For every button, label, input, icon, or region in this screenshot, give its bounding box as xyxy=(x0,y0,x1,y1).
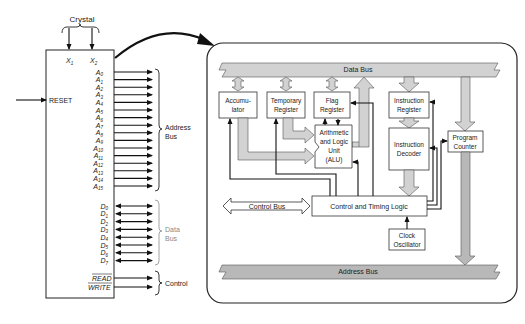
svg-text:(ALU): (ALU) xyxy=(326,156,343,164)
write-pin: WRITE xyxy=(88,284,111,291)
reset-input: RESET xyxy=(16,97,73,104)
svg-text:Arithmetic: Arithmetic xyxy=(320,129,350,136)
svg-text:Temporary: Temporary xyxy=(271,97,302,105)
crystal-label: Crystal xyxy=(70,15,95,24)
svg-text:Bus: Bus xyxy=(165,235,178,242)
zoom-arrow xyxy=(115,33,215,58)
svg-text:Register: Register xyxy=(320,106,345,114)
address-bus-brace: Address Bus xyxy=(155,69,191,191)
svg-text:Instruction: Instruction xyxy=(394,141,424,148)
address-pins: A0A1A2A3A4A5A6A7A8A9A10A11A12A13A14A15 xyxy=(92,69,152,192)
instruction-register: Instruction Register xyxy=(389,92,429,118)
instruction-decoder: Instruction Decoder xyxy=(389,128,429,170)
accumulator: Accumu- lator xyxy=(219,92,257,118)
svg-text:Instruction: Instruction xyxy=(394,97,424,104)
data-bus-label: Data xyxy=(165,226,180,233)
control-timing-logic: Control and Timing Logic xyxy=(312,196,427,216)
reset-label: RESET xyxy=(49,97,73,104)
data-bus-label: Data Bus xyxy=(344,66,373,73)
svg-text:Flag: Flag xyxy=(326,97,339,105)
program-counter: Program Counter xyxy=(448,131,483,152)
control-label: Control xyxy=(165,280,188,287)
microprocessor-diagram: Crystal X1 X2 RESET A0A1A2A3A4A5A6A7A8A9… xyxy=(0,0,525,324)
flag-register: Flag Register xyxy=(314,92,350,118)
svg-text:Accumu-: Accumu- xyxy=(225,97,251,104)
svg-text:Bus: Bus xyxy=(165,133,178,140)
svg-text:Oscillator: Oscillator xyxy=(393,241,421,248)
internal-address-bus: Address Bus xyxy=(219,265,500,279)
svg-text:Program: Program xyxy=(453,134,478,142)
address-bus-label: Address xyxy=(165,124,191,131)
temporary-register: Temporary Register xyxy=(267,92,305,118)
svg-text:Unit: Unit xyxy=(328,147,340,154)
svg-text:Counter: Counter xyxy=(453,143,477,150)
internal-data-bus: Data Bus xyxy=(219,63,500,77)
crystal-brace xyxy=(62,24,99,33)
alu: Arithmetic and Logic Unit (ALU) xyxy=(315,125,352,168)
svg-text:Register: Register xyxy=(397,106,422,114)
address-bus-label: Address Bus xyxy=(338,268,378,275)
svg-text:Register: Register xyxy=(274,106,299,114)
read-pin: READ xyxy=(92,275,111,282)
svg-text:Decoder: Decoder xyxy=(397,150,422,157)
svg-text:lator: lator xyxy=(232,106,245,113)
data-bus-brace: Data Bus xyxy=(155,200,180,265)
svg-text:and Logic: and Logic xyxy=(320,138,349,146)
svg-text:Clock: Clock xyxy=(399,232,416,239)
svg-text:Control Bus: Control Bus xyxy=(249,203,286,210)
svg-text:Control and Timing Logic: Control and Timing Logic xyxy=(330,203,408,211)
